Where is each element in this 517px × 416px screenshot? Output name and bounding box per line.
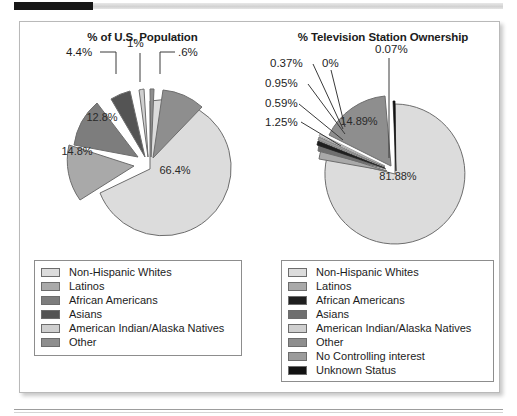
legend-swatch-african-americans	[288, 296, 307, 305]
leader-line-asians	[100, 52, 116, 74]
legend-swatch-other	[288, 338, 307, 347]
legend-swatch-other	[41, 338, 60, 347]
pie-callout-latinos: 1.25%	[265, 116, 298, 128]
legend-label: No Controlling interest	[316, 350, 425, 363]
top-bar-accent	[14, 2, 93, 10]
pie-value-no-controlling-interest: 81.88%	[379, 170, 417, 182]
legend-swatch-no-controlling-interest	[288, 352, 307, 361]
legend-swatch-african-americans	[41, 296, 60, 305]
legend-item: Non-Hispanic Whites	[41, 265, 235, 279]
pie-callout-asians: 4.4%	[66, 46, 92, 58]
legend-item: Latinos	[41, 279, 235, 293]
legend-item: Non-Hispanic Whites	[288, 265, 487, 279]
legend-item: Other	[41, 335, 235, 349]
legend-item: Latinos	[288, 279, 487, 293]
legend-label: American Indian/Alaska Natives	[316, 322, 471, 335]
figure-frame: % of U.S. Population 66.4%	[19, 21, 500, 393]
legend-swatch-non-hispanic-whites	[288, 268, 307, 277]
legend-label: African Americans	[69, 294, 158, 307]
chart-panel-us-population: % of U.S. Population 66.4%	[20, 22, 265, 392]
legend-swatch-asians	[288, 310, 307, 319]
legend-label: Asians	[316, 308, 349, 321]
legend-item: No Controlling interest	[288, 349, 487, 363]
legend-item: Other	[288, 335, 487, 349]
legend-swatch-latinos	[288, 282, 307, 291]
pie-callout-american-indian: 0%	[322, 57, 339, 69]
pie-callout-american-indian: 1%	[127, 37, 144, 49]
legend-label: Unknown Status	[316, 364, 396, 377]
legend-swatch-unknown-status	[288, 366, 307, 375]
top-decoration-bar	[0, 0, 517, 16]
legend-item: American Indian/Alaska Natives	[41, 321, 235, 335]
pie-svg-tv-station-ownership: 81.88% 14.89% 0.37% 0% 0.95% 0.59% 1.25%…	[265, 22, 501, 270]
legend-label: Non-Hispanic Whites	[69, 266, 172, 279]
pie-callout-unknown-status: 0.07%	[375, 43, 408, 55]
legend-item: Asians	[288, 307, 487, 321]
pie-value-african-americans: 12.8%	[86, 111, 117, 123]
pie-chart-tv-station-ownership: 81.88% 14.89% 0.37% 0% 0.95% 0.59% 1.25%…	[265, 22, 501, 270]
legend-label: Latinos	[69, 280, 104, 293]
pie-value-non-hispanic-whites: 14.89%	[340, 115, 378, 127]
bottom-rule-secondary	[14, 412, 503, 413]
legend-swatch-american-indian	[288, 324, 307, 333]
leader-line-other	[160, 52, 175, 74]
legend-item: African Americans	[288, 293, 487, 307]
pie-value-latinos: 14.8%	[61, 145, 92, 157]
legend-label: Other	[316, 336, 344, 349]
pie-svg-us-population: 66.4% 14.8% 12.8% 4.4% 1% .6%	[20, 22, 265, 270]
legend-swatch-asians	[41, 310, 60, 319]
pie-callout-other: 0.37%	[270, 57, 303, 69]
chart-panel-tv-station-ownership: % Television Station Ownership	[265, 22, 501, 392]
pie-callout-african-americans: 0.59%	[265, 97, 298, 109]
legend-item: American Indian/Alaska Natives	[288, 321, 487, 335]
legend-item: Unknown Status	[288, 363, 487, 377]
legend-us-population: Non-Hispanic Whites Latinos African Amer…	[34, 260, 242, 356]
bottom-rule	[14, 409, 503, 410]
legend-label: Asians	[69, 308, 102, 321]
legend-tv-station-ownership: Non-Hispanic Whites Latinos African Amer…	[281, 260, 494, 382]
legend-swatch-non-hispanic-whites	[41, 268, 60, 277]
legend-swatch-latinos	[41, 282, 60, 291]
pie-value-non-hispanic-whites: 66.4%	[159, 164, 190, 176]
legend-item: Asians	[41, 307, 235, 321]
legend-item: African Americans	[41, 293, 235, 307]
legend-label: Latinos	[316, 280, 351, 293]
legend-swatch-american-indian	[41, 324, 60, 333]
legend-label: Other	[69, 336, 97, 349]
pie-callout-asians: 0.95%	[265, 77, 298, 89]
pie-chart-us-population: 66.4% 14.8% 12.8% 4.4% 1% .6%	[20, 22, 265, 270]
legend-label: American Indian/Alaska Natives	[69, 322, 224, 335]
legend-label: African Americans	[316, 294, 405, 307]
pie-callout-other: .6%	[178, 46, 198, 58]
legend-label: Non-Hispanic Whites	[316, 266, 419, 279]
